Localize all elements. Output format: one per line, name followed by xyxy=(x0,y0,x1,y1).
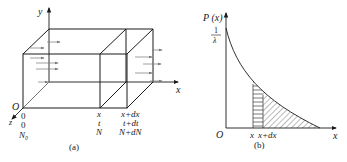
tail-area xyxy=(253,20,333,128)
caption-b: (b) xyxy=(254,140,265,150)
intercept-denominator: λ xyxy=(212,36,217,45)
y-axis-label: y xyxy=(37,6,43,17)
svg-text:N+dN: N+dN xyxy=(118,127,143,137)
x-axis-label: x xyxy=(175,84,181,95)
flow-arrows-out xyxy=(135,50,162,81)
x-axis-label-b: x xyxy=(332,130,338,141)
figure-a: y x z O 0 0 N₀ x t N x+dx t+dt N+dN (a) xyxy=(8,6,181,152)
diagram-canvas: y x z O 0 0 N₀ x t N x+dx t+dt N+dN (a) xyxy=(0,0,347,162)
section-plane-x xyxy=(100,29,126,108)
flow-arrows-in xyxy=(30,42,60,82)
strip-left-label: x xyxy=(249,130,254,140)
z-axis-label: z xyxy=(8,118,13,127)
left-face-labels: 0 0 N₀ xyxy=(18,111,28,140)
p-axis-label: P (x) xyxy=(202,12,223,24)
origin-label-b: O xyxy=(216,129,223,140)
svg-text:N: N xyxy=(95,127,103,137)
svg-text:0: 0 xyxy=(21,120,26,130)
section-xdx-labels: x+dx t+dt N+dN xyxy=(118,109,143,137)
intercept-numerator: 1 xyxy=(214,26,218,35)
caption-a: (a) xyxy=(69,142,79,152)
strip-right-label: x+dx xyxy=(257,130,277,140)
volume-box xyxy=(23,29,153,108)
svg-text:N₀: N₀ xyxy=(18,130,28,140)
origin-label-a: O xyxy=(12,101,19,112)
figure-b: P (x) 1 λ O x x+dx x (b) xyxy=(202,12,338,150)
section-x-labels: x t N xyxy=(95,109,103,137)
